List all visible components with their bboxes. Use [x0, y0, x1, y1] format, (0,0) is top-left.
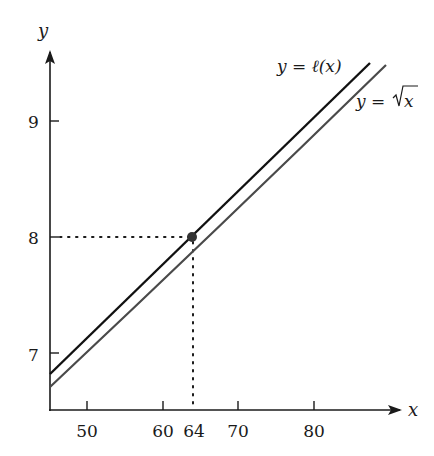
x-ticks: 50 60 64 70 80: [76, 401, 325, 441]
x-axis-label: x: [408, 399, 418, 420]
sqrt-label: y = x: [355, 86, 418, 111]
y-ticks: 9 8 7: [28, 112, 59, 365]
y-axis-label: y: [37, 20, 49, 41]
x-tick-80: 80: [303, 421, 325, 441]
y-tick-8: 8: [28, 228, 39, 248]
tangency-point: [187, 232, 197, 242]
svg-text:y =: y =: [355, 91, 385, 111]
y-tick-7: 7: [28, 345, 39, 365]
x-tick-60: 60: [152, 421, 174, 441]
x-tick-70: 70: [227, 421, 249, 441]
tangent-line-chart: y x 9 8 7 50 60 64 70 80 y = ℓ(x) y = x: [0, 0, 434, 456]
tangent-line: [50, 63, 370, 374]
x-tick-50: 50: [76, 421, 98, 441]
svg-text:x: x: [404, 91, 414, 111]
y-tick-9: 9: [28, 112, 39, 132]
sqrt-curve: [50, 65, 386, 387]
tangent-label: y = ℓ(x): [276, 56, 342, 76]
x-tick-64: 64: [183, 421, 205, 441]
